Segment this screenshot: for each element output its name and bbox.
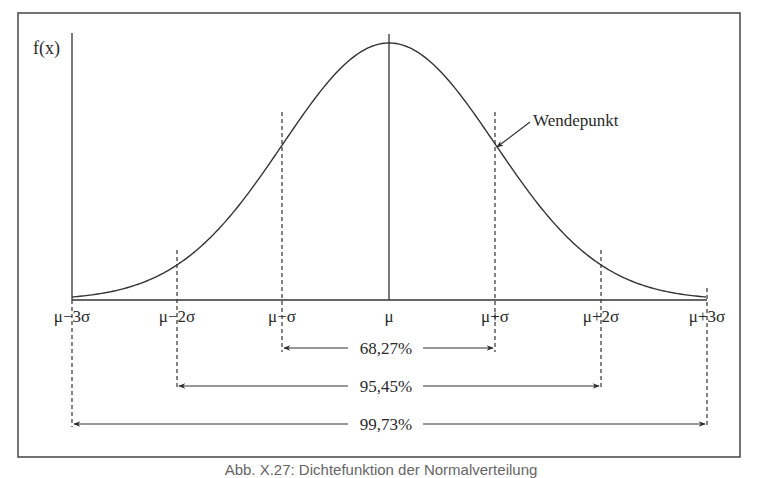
y-axis-label: f(x) [33,38,60,59]
tick-mu: μ [384,307,393,326]
interval-label: 95,45% [360,377,412,396]
interval-label: 99,73% [360,415,412,434]
interval-two-sigma: 95,45% [179,377,599,396]
x-tick-labels: μ−3σ μ−2σ μ−σ μ μ+σ μ+2σ μ+3σ [54,307,725,326]
tick-mu-plus-sigma: μ+σ [481,307,509,326]
tick-mu-minus-2sigma: μ−2σ [159,307,195,326]
tick-mu-minus-sigma: μ−σ [268,307,296,326]
interval-label: 68,27% [360,339,412,358]
tick-mu-minus-3sigma: μ−3σ [54,307,90,326]
tick-mu-plus-3sigma: μ+3σ [689,307,725,326]
interval-three-sigma: 99,73% [74,415,705,434]
tick-mu-plus-2sigma: μ+2σ [583,307,619,326]
interval-one-sigma: 68,27% [284,339,493,358]
inflection-point-label: Wendepunkt [533,111,619,130]
figure-caption: Abb. X.27: Dichtefunktion der Normalvert… [0,461,762,478]
inflection-point-arrow [497,122,530,147]
